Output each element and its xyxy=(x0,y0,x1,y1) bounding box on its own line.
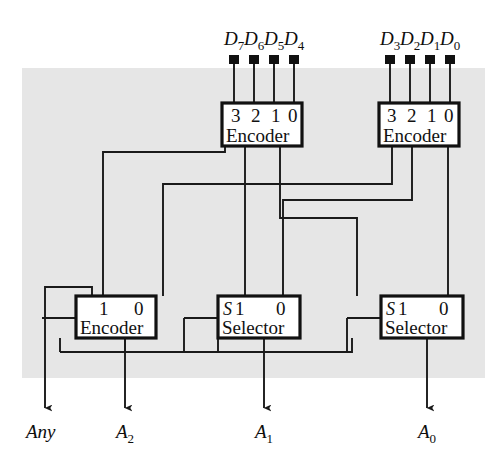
encoder-low-pin-3: 3 xyxy=(387,105,397,126)
output-label-a2: A2 xyxy=(114,421,134,446)
selector-a0-select-pin: S xyxy=(386,299,395,319)
encoder-high-pin-1: 1 xyxy=(271,105,281,126)
block-encoder-merge[interactable]: 1 0 Encoder xyxy=(76,296,156,338)
encoder-high-label: Encoder xyxy=(226,125,290,146)
output-label-group: Any A2 A1 A0 xyxy=(24,421,436,446)
encoder-high-pin-0: 0 xyxy=(288,105,298,126)
encoder-merge-pin-0: 0 xyxy=(134,298,144,319)
input-label-group-high: D7 D6 D5 D4 xyxy=(223,28,305,53)
selector-a1-pin-0: 0 xyxy=(276,298,286,319)
encoder-merge-pin-1: 1 xyxy=(99,298,109,319)
selector-a1-label: Selector xyxy=(222,317,285,338)
block-encoder-low[interactable]: 3 2 1 0 Encoder xyxy=(379,103,459,146)
input-label-d3: D3 xyxy=(379,28,400,53)
encoder-high-pin-2: 2 xyxy=(251,105,261,126)
output-label-any: Any xyxy=(24,421,56,442)
output-label-a0: A0 xyxy=(416,421,436,446)
encoder-low-pin-0: 0 xyxy=(444,105,454,126)
encoder-merge-label: Encoder xyxy=(80,317,144,338)
input-label-group-low: D3 D2 D1 D0 xyxy=(379,28,460,53)
input-label-d6: D6 xyxy=(243,28,265,53)
encoder-low-pin-1: 1 xyxy=(427,105,437,126)
encoder-high-pin-3: 3 xyxy=(231,105,241,126)
output-label-a1: A1 xyxy=(253,421,273,446)
block-selector-a0[interactable]: S 1 0 Selector xyxy=(381,296,463,338)
input-label-d7: D7 xyxy=(223,28,245,53)
input-pads-low xyxy=(385,55,455,64)
input-pads-high xyxy=(229,55,299,64)
selector-a1-pin-1: 1 xyxy=(235,298,245,319)
block-encoder-high[interactable]: 3 2 1 0 Encoder xyxy=(222,103,302,146)
selector-a1-select-pin: S xyxy=(223,299,232,319)
figure-canvas: 3 2 1 0 Encoder 3 2 1 0 Encoder 1 0 Enco… xyxy=(0,0,499,466)
input-label-d4: D4 xyxy=(283,28,305,53)
selector-a0-pin-1: 1 xyxy=(398,298,408,319)
circuit-diagram: 3 2 1 0 Encoder 3 2 1 0 Encoder 1 0 Enco… xyxy=(0,0,499,466)
input-label-d5: D5 xyxy=(263,28,284,53)
encoder-low-pin-2: 2 xyxy=(407,105,417,126)
input-label-d0: D0 xyxy=(439,28,460,53)
encoder-low-label: Encoder xyxy=(383,125,447,146)
input-label-d2: D2 xyxy=(399,28,420,53)
input-label-d1: D1 xyxy=(419,28,440,53)
block-selector-a1[interactable]: S 1 0 Selector xyxy=(218,296,300,338)
selector-a0-label: Selector xyxy=(385,317,448,338)
selector-a0-pin-0: 0 xyxy=(439,298,449,319)
